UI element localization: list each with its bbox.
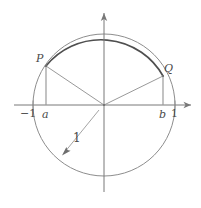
radius-measure-arrowhead (62, 147, 71, 155)
label-point-q: Q (164, 63, 173, 74)
radius-measure-line (64, 110, 99, 153)
label-x-one: 1 (171, 108, 178, 119)
label-x-a: a (42, 109, 49, 120)
unit-circle-figure: P Q −1 a b 1 1 (0, 0, 201, 208)
label-x-minus-one: −1 (20, 108, 36, 119)
origin-point (103, 104, 105, 106)
label-radius-one: 1 (73, 132, 81, 144)
radius-to-p (46, 66, 104, 105)
radius-to-q (104, 76, 163, 105)
label-x-b: b (159, 109, 166, 120)
figure-canvas (0, 0, 201, 208)
point-p-dot (45, 65, 47, 67)
label-point-p: P (36, 53, 43, 64)
point-q-dot (162, 75, 164, 77)
